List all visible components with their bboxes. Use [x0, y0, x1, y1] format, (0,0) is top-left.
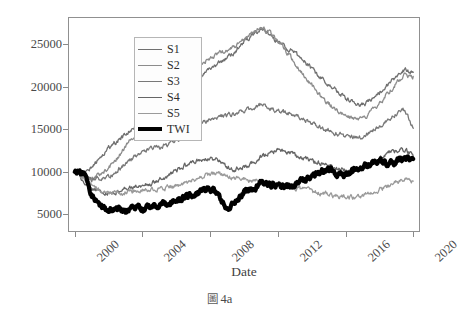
- y-tick-label: 15000: [31, 123, 62, 136]
- plot-area: S1S2S3S4S5TWI: [68, 17, 420, 232]
- legend-swatch-twi-icon: [138, 127, 162, 131]
- legend-item-s3[interactable]: S3: [138, 73, 197, 89]
- legend-label: S1: [167, 43, 180, 55]
- y-axis-tick-labels: 500010000150002000025000: [0, 17, 62, 232]
- x-tick-mark: [75, 232, 76, 237]
- x-tick-mark: [210, 232, 211, 237]
- x-tick-mark: [142, 232, 143, 237]
- figure-caption: 圖4a: [0, 290, 439, 307]
- legend-item-s5[interactable]: S5: [138, 105, 197, 121]
- legend-swatch-s1-icon: [138, 49, 162, 50]
- legend-label: S2: [167, 59, 180, 71]
- x-tick-mark: [346, 232, 347, 237]
- x-tick-label: 2008: [230, 238, 257, 264]
- legend-item-s1[interactable]: S1: [138, 41, 197, 57]
- legend-label: S5: [167, 107, 180, 119]
- x-axis-title: Date: [68, 264, 420, 280]
- legend-label: TWI: [167, 123, 190, 135]
- series-line-s1: [75, 28, 413, 176]
- x-tick-label: 2016: [365, 238, 392, 264]
- legend-swatch-s4-icon: [138, 97, 162, 98]
- y-tick-label: 5000: [37, 208, 62, 221]
- caption-glyph: 圖: [207, 292, 218, 306]
- legend-swatch-s5-icon: [138, 113, 162, 114]
- legend-item-twi[interactable]: TWI: [138, 121, 197, 137]
- x-axis-tick-labels: 200020042008201220162020: [68, 238, 420, 266]
- x-tick-label: 2020: [433, 238, 460, 264]
- x-tick-label: 2012: [298, 238, 325, 264]
- legend-swatch-s2-icon: [138, 65, 162, 66]
- y-tick-label: 10000: [31, 166, 62, 179]
- x-tick-mark: [278, 232, 279, 237]
- y-tick-label: 20000: [31, 81, 62, 94]
- x-tick-mark: [413, 232, 414, 237]
- legend-item-s2[interactable]: S2: [138, 57, 197, 73]
- caption-text: 4a: [221, 292, 233, 306]
- legend: S1S2S3S4S5TWI: [134, 37, 202, 141]
- y-tick-label: 25000: [31, 38, 62, 51]
- x-tick-label: 2000: [94, 238, 121, 264]
- x-tick-label: 2004: [162, 238, 189, 264]
- legend-item-s4[interactable]: S4: [138, 89, 197, 105]
- legend-label: S4: [167, 91, 180, 103]
- legend-label: S3: [167, 75, 180, 87]
- legend-swatch-s3-icon: [138, 81, 162, 82]
- series-lines: [68, 17, 420, 232]
